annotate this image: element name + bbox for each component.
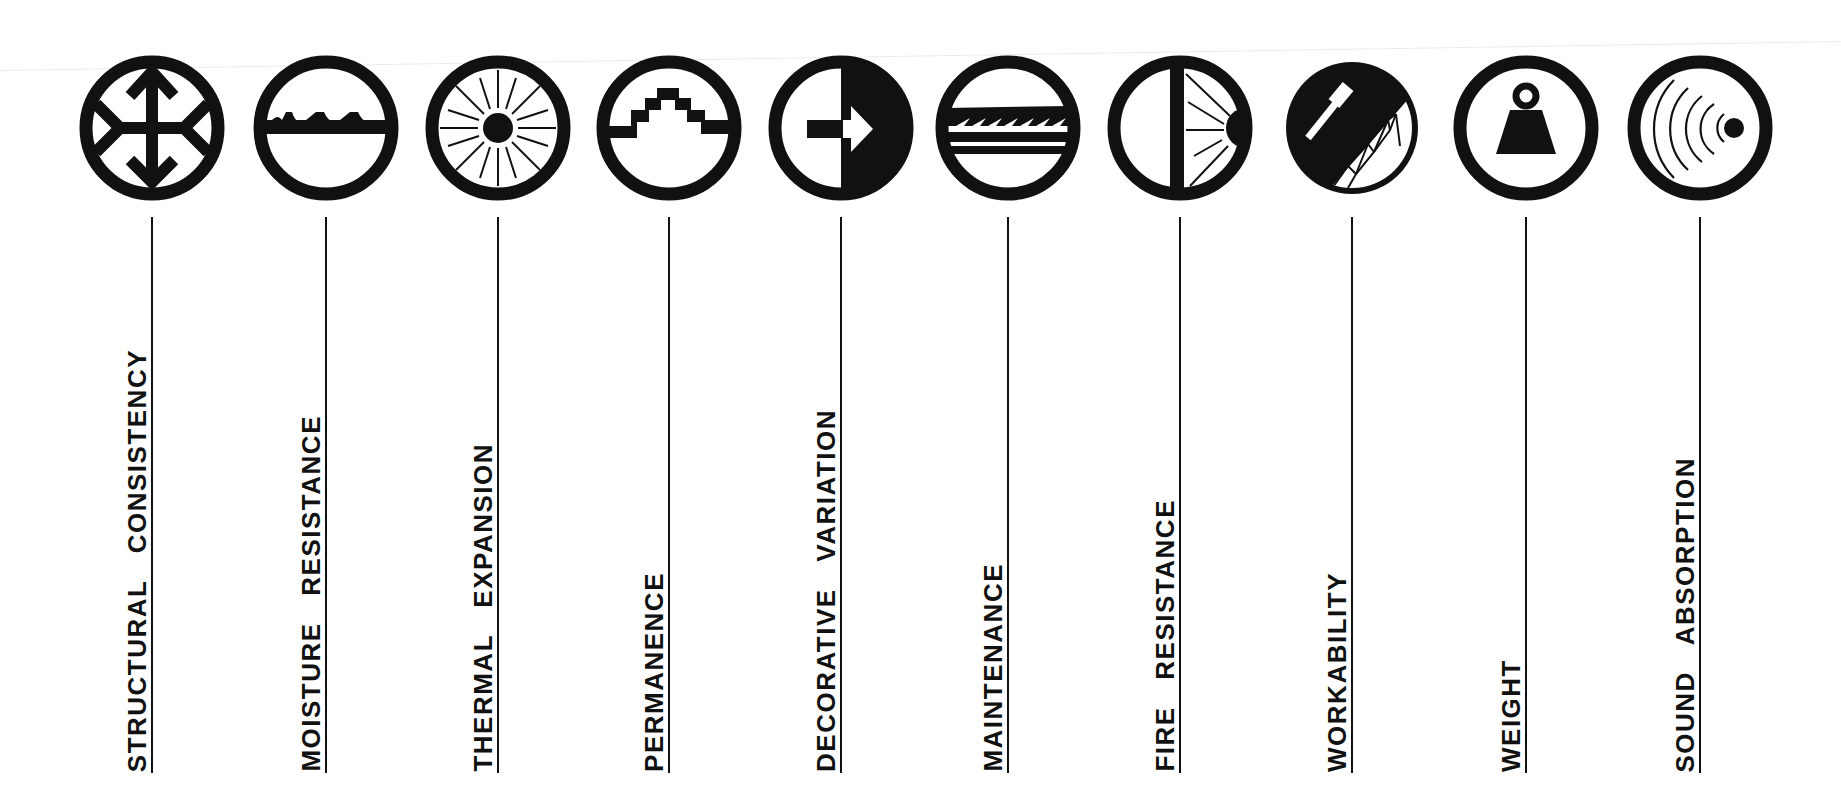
wall-fire-icon bbox=[1106, 54, 1254, 202]
item-label: FIRE RESISTANCE bbox=[1151, 499, 1179, 772]
legend-item-maintenance: MAINTENANCE bbox=[922, 0, 1094, 807]
legend-item-fire-resistance: FIRE RESISTANCE bbox=[1094, 0, 1266, 807]
legend-item-permanence: PERMANENCE bbox=[583, 0, 755, 807]
stepped-pyramid-icon bbox=[595, 54, 743, 202]
hammer-truss-icon bbox=[1278, 54, 1426, 202]
legend-item-decorative-variation: DECORATIVE VARIATION bbox=[755, 0, 927, 807]
item-label: DECORATIVE VARIATION bbox=[812, 409, 840, 772]
item-label: PERMANENCE bbox=[640, 572, 668, 772]
legend-item-moisture-resistance: MOISTURE RESISTANCE bbox=[240, 0, 412, 807]
weight-icon bbox=[1452, 54, 1600, 202]
sun-rays-icon bbox=[424, 54, 572, 202]
item-label: WEIGHT bbox=[1497, 659, 1525, 772]
item-label: STRUCTURAL CONSISTENCY bbox=[123, 349, 151, 772]
saw-blade-icon bbox=[934, 54, 1082, 202]
legend-item-weight: WEIGHT bbox=[1440, 0, 1612, 807]
item-label: SOUND ABSORPTION bbox=[1671, 457, 1699, 773]
item-label: WORKABILITY bbox=[1323, 572, 1351, 772]
item-label: MOISTURE RESISTANCE bbox=[297, 415, 325, 772]
legend-item-thermal-expansion: THERMAL EXPANSION bbox=[412, 0, 584, 807]
legend-item-sound-absorption: SOUND ABSORPTION bbox=[1614, 0, 1786, 807]
item-label: MAINTENANCE bbox=[979, 563, 1007, 772]
item-label: THERMAL EXPANSION bbox=[469, 443, 497, 772]
structural-arrows-icon bbox=[78, 54, 226, 202]
moisture-waves-icon bbox=[252, 54, 400, 202]
half-circle-arrow-icon bbox=[767, 54, 915, 202]
legend-item-structural-consistency: STRUCTURAL CONSISTENCY bbox=[66, 0, 238, 807]
sound-waves-icon bbox=[1626, 54, 1774, 202]
legend-item-workability: WORKABILITY bbox=[1266, 0, 1438, 807]
